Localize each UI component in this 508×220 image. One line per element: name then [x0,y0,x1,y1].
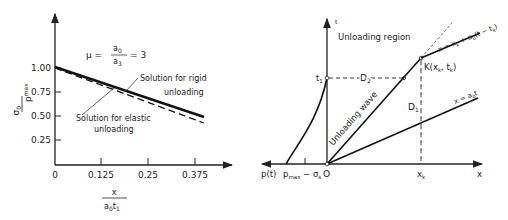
left-y-ticks [55,68,61,140]
pmax-sigma-label: pmax − σs [283,169,321,180]
left-x-label: x a0t1 [102,188,127,212]
unloading-region-label: Unloading region [338,32,411,42]
svg-text:a3: a3 [113,57,122,67]
elastic-label-2: unloading [94,125,134,134]
rigid-label-2: unloading [164,88,204,97]
y-tick-0.50: 0.50 [31,111,51,121]
origin-point [325,162,329,166]
y-tick-0.25: 0.25 [31,135,51,145]
t1-point [325,76,329,80]
t1-label: t1 [316,74,323,84]
wave-extension-dashed [421,23,452,58]
k-label: K(xk, tk) [424,62,456,73]
svg-text:a0: a0 [113,44,122,54]
left-x-ticks [101,158,195,165]
load-curve [286,78,327,164]
svg-text:σ0: σ0 [11,106,22,116]
x-tick-0: 0 [52,170,58,180]
rigid-label-1: Solution for rigid [140,74,207,83]
y-tick-0.75: 0.75 [31,87,51,97]
mu-annotation: μ = a0 a3 = 3 [86,44,146,67]
upper-line-label: x = xk + a0(t − tk) [437,23,499,55]
x-tick-0.125: 0.125 [88,170,114,180]
x-tick-0.375: 0.375 [182,170,208,180]
d1-label: D1 [408,102,419,113]
elastic-leader [82,88,114,115]
rigid-leader [126,78,138,91]
svg-text:x: x [112,188,117,197]
left-chart: 1.00 0.75 0.50 0.25 0 0.125 0.25 0.375 x… [11,14,232,212]
svg-text:μ =: μ = [86,50,102,60]
x-tick-0.25: 0.25 [138,170,158,180]
origin-label: O [323,169,330,179]
p-axis-label: p(t) [261,169,276,179]
y-tick-1.00: 1.00 [31,63,51,73]
unloading-wave-label: Unloading wave [327,89,379,147]
t-axis-label: t [335,18,338,25]
elastic-front-line [327,98,478,164]
svg-text:= 3: = 3 [130,50,146,60]
x-axis-label: x [477,169,482,179]
elastic-label-1: Solution for elastic [76,114,151,123]
xk-label: xk [417,169,426,180]
figure: 1.00 0.75 0.50 0.25 0 0.125 0.25 0.375 x… [0,0,508,220]
lower-line-label: x = a0t [453,89,479,107]
d2-label: D2 [360,73,371,84]
svg-text:a0t1: a0t1 [104,202,120,212]
left-y-label: σ0 pmax [11,83,33,116]
right-diagram: t Unloading region t1 D2 Unloading wave … [261,18,499,180]
unloading-wave-line [327,58,421,164]
